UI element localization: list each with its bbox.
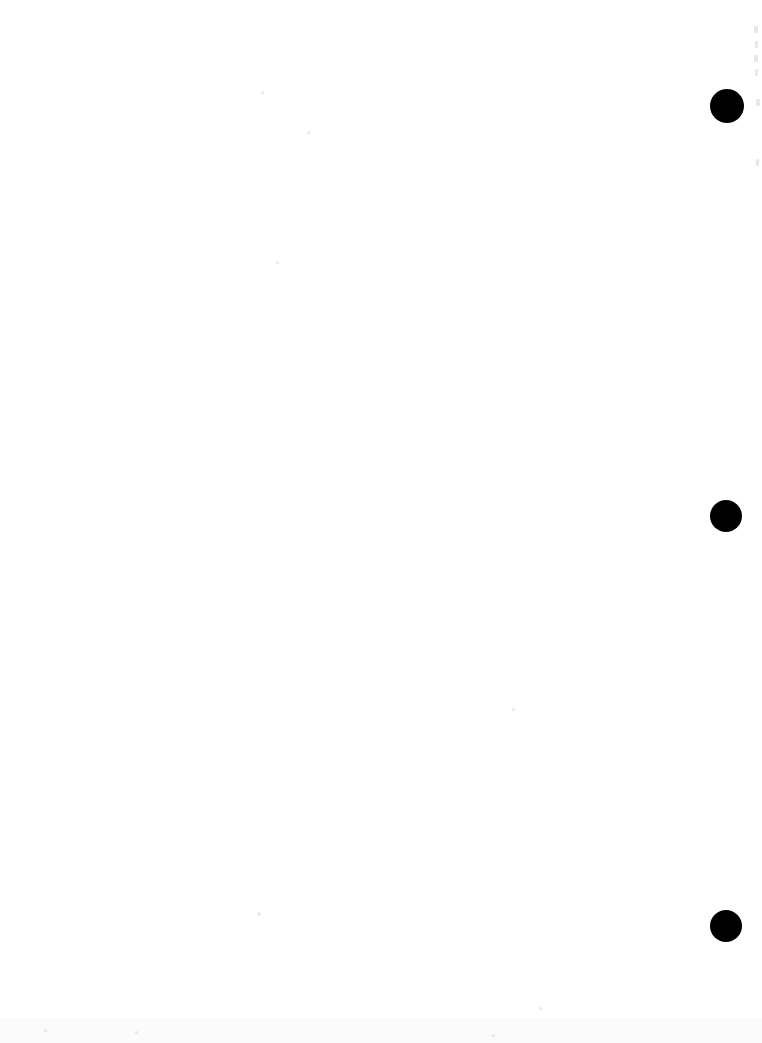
edge-fragment-1 [754,26,758,33]
speck-6 [539,1007,542,1010]
speck-8 [135,1031,138,1034]
edge-fragment-2 [755,41,758,48]
edge-fragment-6 [756,159,759,166]
edge-fragment-3 [754,55,758,62]
bottom-scan-shadow [0,1018,762,1043]
edge-fragment-4 [755,69,758,76]
speck-9 [492,1034,495,1037]
speck-1 [261,91,264,94]
edge-fragment-5 [756,99,760,106]
bullet-mark-2 [710,500,742,532]
speck-2 [307,131,310,134]
speck-5 [512,708,515,711]
scanned-page [0,0,762,1043]
bullet-mark-1 [710,89,744,123]
speck-7 [44,1029,47,1032]
speck-4 [257,912,261,916]
speck-3 [276,261,279,264]
bullet-mark-3 [710,910,742,942]
